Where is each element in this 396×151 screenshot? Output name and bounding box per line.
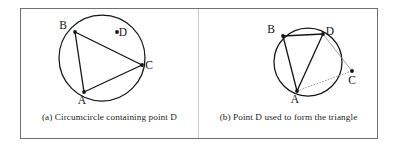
figure-root: ABCD (a) Circumcircle containing point D… xyxy=(0,0,396,151)
figure-frame: ABCD (a) Circumcircle containing point D… xyxy=(20,8,378,139)
edge-b-c xyxy=(75,32,142,65)
vertex-label-d: D xyxy=(326,25,334,37)
vertex-label-a: A xyxy=(78,94,87,106)
panel-a-circumcircle: ABCD (a) Circumcircle containing point D xyxy=(21,9,198,138)
panel-b-diagram: ABDC xyxy=(198,9,379,109)
panel-b-triangle: ABDC (b) Point D used to form the triang… xyxy=(198,9,379,138)
vertex-label-b: B xyxy=(267,23,275,35)
edge-d-a xyxy=(297,34,323,91)
panel-a-caption: (a) Circumcircle containing point D xyxy=(21,112,198,122)
vertex-label-c: C xyxy=(348,74,356,86)
edge-a-b xyxy=(75,32,84,92)
vertex-label-b: B xyxy=(59,19,67,31)
vertex-label-d: D xyxy=(119,26,127,38)
vertex-label-a: A xyxy=(291,93,300,105)
panel-a-diagram: ABCD xyxy=(21,9,198,109)
vertex-dot-c xyxy=(140,63,144,67)
panel-b-svg: ABDC xyxy=(198,9,379,109)
vertex-dot-d xyxy=(321,32,325,36)
edge-d-c xyxy=(323,34,352,71)
panel-b-caption: (b) Point D used to form the triangle xyxy=(198,112,379,122)
circumcircle-a xyxy=(59,15,145,101)
vertex-label-c: C xyxy=(145,59,153,71)
edge-a-b xyxy=(283,36,297,91)
vertex-dot-b xyxy=(281,34,285,38)
vertex-dot-c xyxy=(350,69,354,73)
vertex-dot-b xyxy=(73,30,77,34)
panel-a-svg: ABCD xyxy=(21,9,198,109)
